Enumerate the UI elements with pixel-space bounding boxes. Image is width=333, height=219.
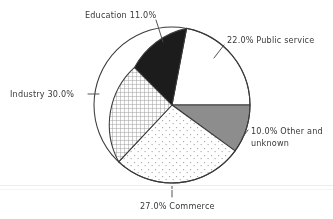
label-other-and-unknown-line2: unknown xyxy=(251,138,289,148)
label-public-service: 22.0% Public service xyxy=(227,35,314,45)
label-education: Education 11.0% xyxy=(85,10,156,20)
label-industry: Industry 30.0% xyxy=(10,89,74,99)
pie-chart-canvas: Education 11.0% 22.0% Public service 10.… xyxy=(0,0,333,219)
pie-chart-figure: Education 11.0% 22.0% Public service 10.… xyxy=(0,0,333,219)
label-other-and-unknown-line1: 10.0% Other and xyxy=(251,126,323,136)
label-commerce: 27.0% Commerce xyxy=(140,201,215,211)
